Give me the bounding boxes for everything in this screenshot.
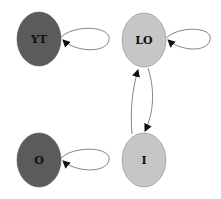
edge-lo-self-loop xyxy=(166,29,210,49)
node-yt: YT xyxy=(17,12,61,66)
node-i: I xyxy=(122,133,166,187)
node-i-label: I xyxy=(141,154,146,167)
state-diagram: YT LO O I xyxy=(0,0,221,199)
node-o-label: O xyxy=(34,154,44,167)
edge-i-to-lo xyxy=(131,70,138,134)
edge-lo-to-i xyxy=(145,68,153,131)
edge-yt-self-loop xyxy=(61,28,109,49)
node-lo: LO xyxy=(122,13,166,67)
edge-o-self-loop xyxy=(61,149,109,170)
node-lo-label: LO xyxy=(135,34,153,47)
node-yt-label: YT xyxy=(30,33,48,46)
node-o: O xyxy=(17,133,61,187)
